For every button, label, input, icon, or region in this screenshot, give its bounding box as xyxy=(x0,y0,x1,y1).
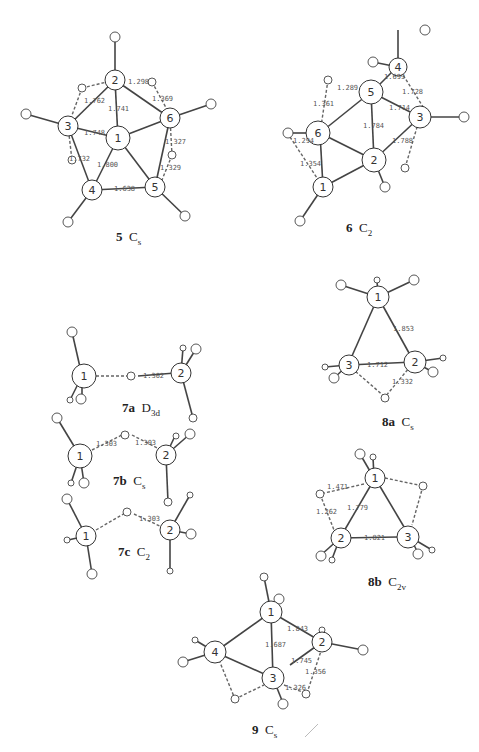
structure-9: 1 2 3 4 1.843 1.687 1.745 1.356 1.326 xyxy=(178,573,368,709)
svg-text:1.788: 1.788 xyxy=(392,137,413,145)
svg-text:1.714: 1.714 xyxy=(389,104,410,112)
structure-8b: 1 2 3 1.471 1.779 1.262 1.821 xyxy=(316,449,435,563)
scan-mark xyxy=(305,724,318,737)
svg-text:3: 3 xyxy=(346,359,353,372)
svg-text:1: 1 xyxy=(372,472,379,485)
svg-text:1.784: 1.784 xyxy=(363,122,384,130)
svg-text:1.638: 1.638 xyxy=(114,185,135,193)
svg-text:1.687: 1.687 xyxy=(265,641,286,649)
label-structure-7b: 7b Cs xyxy=(113,473,145,491)
svg-text:1.303: 1.303 xyxy=(135,439,156,447)
svg-text:5: 5 xyxy=(152,181,159,194)
svg-text:3: 3 xyxy=(65,120,72,133)
svg-text:2: 2 xyxy=(319,636,326,649)
svg-text:1.289: 1.289 xyxy=(337,84,358,92)
svg-text:1.326: 1.326 xyxy=(285,684,306,692)
svg-text:1.332: 1.332 xyxy=(392,378,413,386)
svg-text:1.712: 1.712 xyxy=(367,361,388,369)
svg-text:1.356: 1.356 xyxy=(305,668,326,676)
svg-text:6: 6 xyxy=(315,127,322,140)
molecular-structures-figure: 1 2 3 4 5 6 1.298 1.369 1.762 1.741 1.74… xyxy=(0,0,479,752)
svg-text:1.303: 1.303 xyxy=(139,515,160,523)
svg-text:1.762: 1.762 xyxy=(84,97,105,105)
svg-text:4: 4 xyxy=(89,184,96,197)
svg-text:1.853: 1.853 xyxy=(393,325,414,333)
svg-text:1: 1 xyxy=(320,181,327,194)
svg-text:2: 2 xyxy=(338,532,345,545)
svg-text:1.369: 1.369 xyxy=(152,95,173,103)
svg-text:1.732: 1.732 xyxy=(69,155,90,163)
svg-text:1.302: 1.302 xyxy=(143,372,164,380)
svg-text:1.262: 1.262 xyxy=(316,508,337,516)
svg-text:1.748: 1.748 xyxy=(84,129,105,137)
svg-text:1.800: 1.800 xyxy=(97,161,118,169)
label-structure-5: 5 Cs xyxy=(116,229,141,247)
svg-text:1.728: 1.728 xyxy=(402,88,423,96)
svg-text:4: 4 xyxy=(395,61,402,74)
svg-text:3: 3 xyxy=(270,672,277,685)
label-structure-6: 6 C2 xyxy=(346,220,372,238)
structure-7c: 1 2 1.303 xyxy=(62,492,196,579)
label-structure-8a: 8a Cs xyxy=(382,414,414,432)
structure-8a: 1 2 3 1.853 1.712 1.332 xyxy=(322,275,446,402)
svg-text:2: 2 xyxy=(163,449,170,462)
svg-text:1.294: 1.294 xyxy=(293,137,314,145)
label-structure-7a: 7a D3d xyxy=(122,400,160,418)
svg-text:1: 1 xyxy=(268,606,275,619)
svg-text:1.745: 1.745 xyxy=(291,657,312,665)
svg-text:2: 2 xyxy=(178,367,185,380)
svg-text:2: 2 xyxy=(371,154,378,167)
svg-text:2: 2 xyxy=(412,356,419,369)
svg-text:1.821: 1.821 xyxy=(364,534,385,542)
svg-text:1.471: 1.471 xyxy=(327,483,348,491)
svg-text:6: 6 xyxy=(167,112,174,125)
label-structure-7c: 7c C2 xyxy=(118,544,150,562)
svg-text:1.843: 1.843 xyxy=(287,625,308,633)
label-structure-9: 9 Cs xyxy=(252,722,277,740)
svg-text:3: 3 xyxy=(405,531,412,544)
svg-text:1.361: 1.361 xyxy=(313,100,334,108)
svg-text:1.699: 1.699 xyxy=(384,73,405,81)
svg-text:5: 5 xyxy=(368,86,375,99)
svg-text:1: 1 xyxy=(81,370,88,383)
svg-text:1: 1 xyxy=(77,450,84,463)
svg-text:1: 1 xyxy=(375,291,382,304)
structure-6: 1 2 3 4 5 6 1.699 1.289 1.728 1.361 1.71… xyxy=(283,25,469,226)
svg-text:1.327: 1.327 xyxy=(165,138,186,146)
svg-text:2: 2 xyxy=(167,524,174,537)
svg-text:1.354: 1.354 xyxy=(300,160,321,168)
svg-text:1.741: 1.741 xyxy=(108,105,129,113)
svg-text:1.303: 1.303 xyxy=(96,440,117,448)
svg-text:1: 1 xyxy=(115,132,122,145)
structure-7b: 1 2 1.303 1.303 xyxy=(52,413,195,506)
svg-text:3: 3 xyxy=(417,111,424,124)
svg-text:2: 2 xyxy=(112,74,119,87)
svg-text:4: 4 xyxy=(212,646,219,659)
label-structure-8b: 8b C2v xyxy=(368,574,406,592)
structure-5: 1 2 3 4 5 6 1.298 1.369 1.762 1.741 1.74… xyxy=(21,32,216,227)
svg-text:1.329: 1.329 xyxy=(160,164,181,172)
svg-text:1.779: 1.779 xyxy=(347,504,368,512)
svg-text:1.298: 1.298 xyxy=(128,78,149,86)
svg-text:1: 1 xyxy=(83,530,90,543)
